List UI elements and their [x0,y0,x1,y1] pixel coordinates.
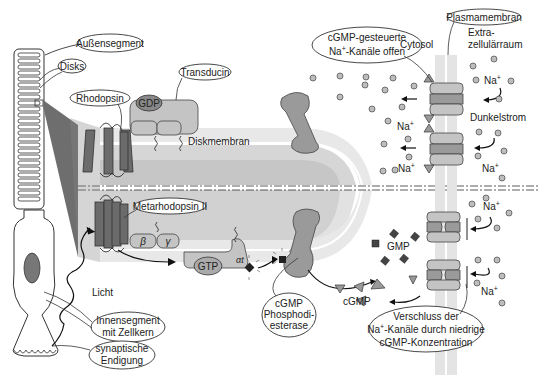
svg-text:Rhodopsin: Rhodopsin [76,93,124,104]
label-inner-segment: Innensegment mit Zellkern [44,292,165,342]
label-transducin: Transducin [176,64,231,100]
label-channel-closure: Verschluss der Na+-Kanäle durch niedrige… [367,284,485,352]
svg-text:Verschluss der: Verschluss der [393,311,459,322]
svg-text:Na+: Na+ [483,200,500,212]
rhodopsin [83,123,133,177]
label-extracellular: Extra- [468,27,495,38]
svg-text:Plasmamembran: Plasmamembran [446,12,522,23]
svg-text:Metarhodopsin II: Metarhodopsin II [133,201,208,212]
pde-activation-site [279,256,286,263]
svg-text:Phosphodi-: Phosphodi- [264,309,315,320]
rod-cell [13,49,58,356]
alpha-t-label: αt [236,255,244,265]
label-gmp: GMP [387,241,410,252]
svg-text:cGMP-gesteuerte: cGMP-gesteuerte [328,32,407,43]
svg-text:mit Zellkern: mit Zellkern [102,327,154,338]
label-light: Licht [92,287,113,298]
svg-text:cGMP-Konzentration: cGMP-Konzentration [380,337,473,348]
svg-text:esterase: esterase [270,320,309,331]
pde-inactive [281,92,319,153]
svg-text:zellulärraum: zellulärraum [468,39,522,50]
label-channels-open: cGMP-gesteuerte Na+-Kanäle offen [312,27,432,82]
label-synaptic-ending: synaptische Endigung [52,341,155,369]
svg-text:Na+: Na+ [484,74,501,86]
svg-text:Na+-Kanäle durch niedrige: Na+-Kanäle durch niedrige [367,323,485,335]
disk-stack [18,53,40,201]
svg-text:Innensegment: Innensegment [96,315,160,326]
svg-text:Endigung: Endigung [101,355,143,366]
label-disk-membrane: Diskmembran [188,136,250,147]
svg-text:Na+: Na+ [398,162,415,174]
nucleus [24,253,40,283]
svg-text:Na+: Na+ [482,162,499,174]
svg-text:cGMP: cGMP [275,298,303,309]
channel-closed-1[interactable] [427,212,467,242]
svg-text:Na+: Na+ [481,285,498,297]
svg-text:Na+: Na+ [397,120,414,132]
svg-text:Na+-Kanäle offen: Na+-Kanäle offen [329,45,405,57]
svg-text:synaptische: synaptische [96,343,149,354]
svg-text:Außensegment: Außensegment [76,38,144,49]
svg-text:Transducin: Transducin [180,67,229,78]
phototransduction-diagram: GDP β γ GTP αt [0,0,539,378]
gdp-label: GDP [138,98,160,109]
label-cytosol: Cytosol [400,39,433,50]
svg-text:Disks: Disks [60,61,84,72]
beta-label: β [139,236,146,247]
label-disks: Disks [40,59,86,88]
channel-closed-2[interactable] [427,260,467,290]
label-outer-segment: Außensegment [45,34,144,55]
gtp-label: GTP [198,261,219,272]
label-cgmp: cGMP [343,296,371,307]
label-dark-current: Dunkelstrom [470,112,526,123]
